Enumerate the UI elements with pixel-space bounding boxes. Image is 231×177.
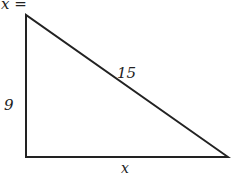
question-title: x = — [1, 0, 27, 13]
triangle-diagram: x = 9 15 x — [0, 0, 231, 177]
left-side-label: 9 — [4, 96, 14, 114]
hypotenuse-label: 15 — [117, 64, 136, 82]
right-triangle — [26, 15, 228, 157]
bottom-side-label: x — [121, 160, 129, 176]
